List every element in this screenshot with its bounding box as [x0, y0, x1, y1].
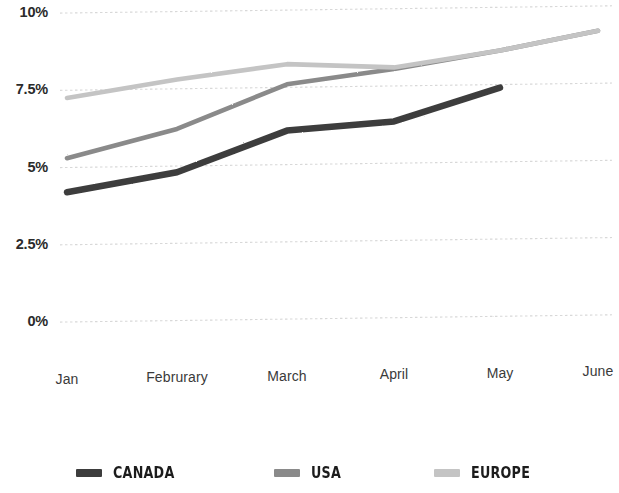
x-tick-label: Februrary — [117, 370, 237, 384]
series-lines — [67, 31, 598, 193]
x-tick-label: Jan — [7, 372, 127, 386]
legend-label: CANADA — [113, 464, 175, 482]
gridline — [60, 6, 612, 13]
legend-swatch-icon — [434, 469, 460, 477]
gridline — [60, 315, 612, 322]
line-chart: 10%7.5%5%2.5%0% JanFebruraryMarchAprilMa… — [0, 0, 619, 493]
series-line-usa — [67, 31, 598, 159]
y-tick-label: 7.5% — [0, 82, 48, 97]
y-tick-label: 10% — [0, 5, 48, 20]
plot-area — [0, 0, 619, 400]
series-line-europe — [67, 31, 598, 98]
y-tick-label: 2.5% — [0, 237, 48, 252]
x-tick-label: March — [227, 369, 347, 383]
legend-item-europe[interactable]: EUROPE — [434, 464, 543, 482]
legend-item-canada[interactable]: CANADA — [76, 464, 188, 482]
gridline — [60, 160, 612, 167]
legend-swatch-icon — [274, 469, 300, 477]
gridline — [60, 238, 612, 245]
legend-item-usa[interactable]: USA — [274, 464, 348, 482]
x-tick-label: April — [334, 367, 454, 381]
legend-label: EUROPE — [471, 464, 530, 482]
y-tick-label: 5% — [0, 160, 48, 175]
gridlines — [60, 6, 612, 322]
chart-legend: CANADAUSAEUROPE — [0, 452, 619, 493]
y-tick-label: 0% — [0, 314, 48, 329]
legend-label: USA — [311, 464, 341, 482]
legend-swatch-icon — [76, 469, 102, 477]
x-tick-label: June — [538, 364, 619, 378]
